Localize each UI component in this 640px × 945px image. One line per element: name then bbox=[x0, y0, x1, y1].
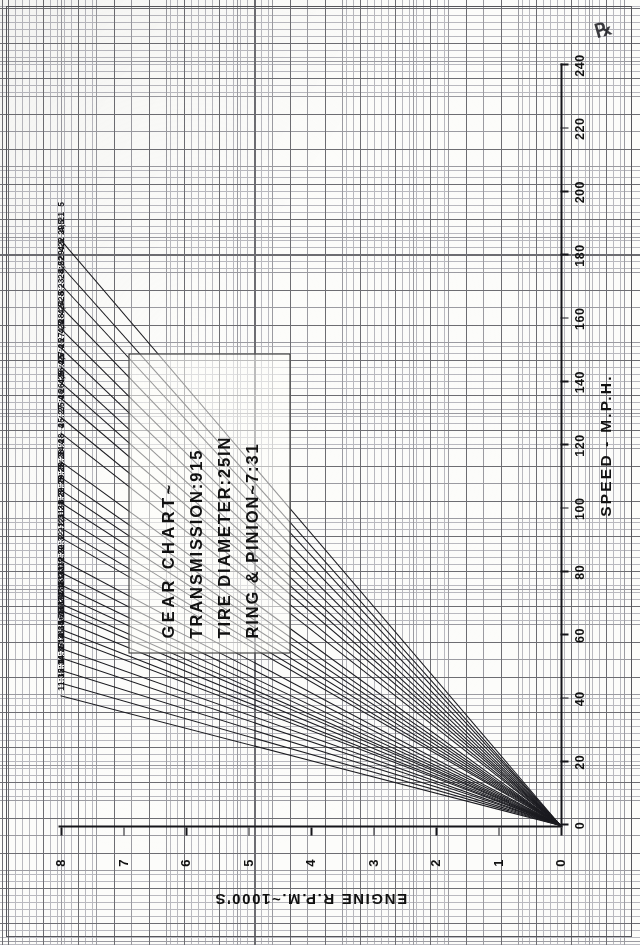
gear-positions: 4 bbox=[55, 394, 65, 399]
gear-positions: 3 bbox=[55, 451, 65, 456]
gear-ratio-line bbox=[60, 629, 560, 825]
chart-title: GEAR CHART~ bbox=[158, 368, 177, 638]
spec-ring-and-pinion: RING & PINION~7:31 bbox=[242, 368, 261, 638]
gear-positions: 2 bbox=[55, 534, 65, 539]
gear-positions: 4 bbox=[55, 439, 65, 444]
gear-positions: 2 bbox=[55, 565, 65, 570]
gear-positions: 4,5 bbox=[55, 301, 65, 314]
gear-ratio-label: 11:351 bbox=[55, 658, 65, 691]
chart-title-block: GEAR CHART~ TRANSMISSION:915 TIRE DIAMET… bbox=[128, 353, 290, 653]
spec-tire-diameter: TIRE DIAMETER:25IN bbox=[214, 368, 233, 638]
gear-positions: 1 bbox=[55, 658, 65, 663]
gear-positions: 4,5 bbox=[55, 260, 65, 273]
gear-positions: 5 bbox=[55, 201, 65, 206]
spec-transmission: TRANSMISSION:915 bbox=[186, 368, 205, 638]
gear-positions: 4,5 bbox=[55, 219, 65, 232]
gear-positions: 1 bbox=[55, 619, 65, 624]
gear-positions: 3 bbox=[55, 477, 65, 482]
gear-positions: 4 bbox=[55, 423, 65, 428]
gear-positions: 4,5 bbox=[55, 371, 65, 384]
gear-positions: 1 bbox=[55, 610, 65, 615]
gear-positions: 3 bbox=[55, 489, 65, 494]
gear-positions: 2 bbox=[55, 597, 65, 602]
gear-positions: 4,5 bbox=[55, 352, 65, 365]
gear-positions: 4,5 bbox=[55, 238, 65, 251]
gear-ratio-value: 11:35 bbox=[55, 668, 65, 691]
gear-positions: 3 bbox=[55, 499, 65, 504]
gear-positions: 2 bbox=[55, 581, 65, 586]
gear-positions: 4,5 bbox=[55, 320, 65, 333]
gear-positions: 1 bbox=[55, 632, 65, 637]
gear-positions: 3 bbox=[55, 464, 65, 469]
gear-ratio-lines bbox=[0, 0, 640, 945]
gear-positions: 2 bbox=[55, 591, 65, 596]
plot-stage: 020406080100120140160180200220240 012345… bbox=[0, 0, 640, 945]
gear-positions: 4 bbox=[55, 344, 65, 349]
gear-positions: 2 bbox=[55, 572, 65, 577]
gear-positions: 2 bbox=[55, 546, 65, 551]
gear-positions: 2,3 bbox=[55, 513, 65, 526]
gear-chart-page: 020406080100120140160180200220240 012345… bbox=[0, 0, 640, 945]
gear-positions: 5 bbox=[55, 290, 65, 295]
gear-positions: 2 bbox=[55, 556, 65, 561]
gear-positions: 1 bbox=[55, 645, 65, 650]
